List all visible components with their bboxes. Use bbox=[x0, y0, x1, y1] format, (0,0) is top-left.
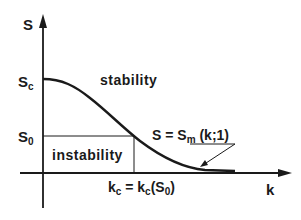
x-axis-label: k bbox=[266, 181, 275, 198]
y-axis-arrow-icon bbox=[39, 14, 47, 28]
s0-label: S0 bbox=[18, 128, 34, 147]
stability-region-label: stability bbox=[100, 72, 157, 88]
pointer-arrow-icon bbox=[200, 160, 208, 167]
y-axis-label: S bbox=[23, 16, 33, 33]
stability-diagram: S k Sc S0 stability instability S = Sm (… bbox=[0, 0, 301, 220]
curve-label: S = Sm (k;1) bbox=[152, 127, 229, 145]
label-pointer bbox=[203, 144, 235, 165]
sc-label: Sc bbox=[18, 73, 34, 92]
x-axis-arrow-icon bbox=[278, 169, 292, 177]
instability-region-label: instability bbox=[52, 147, 123, 163]
kc-label: kc = kc(S0) bbox=[108, 179, 175, 197]
